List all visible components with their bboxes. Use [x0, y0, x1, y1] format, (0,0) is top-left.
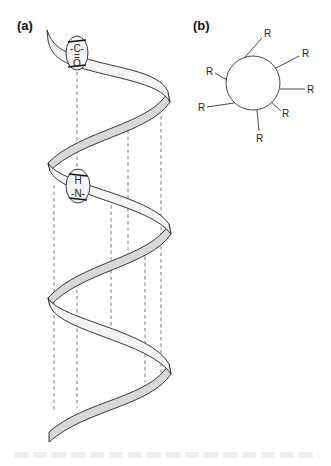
r-label: R — [198, 102, 205, 113]
r-label: R — [256, 133, 263, 144]
r-label: R — [307, 84, 314, 95]
panel-b-label: (b) — [193, 18, 210, 33]
amide-group: H -N- — [66, 169, 90, 203]
r-label: R — [282, 108, 289, 119]
helical-wheel: R R R R R R R — [198, 28, 314, 144]
helix-ribbon-front — [47, 30, 171, 374]
amide-nitrogen: -N- — [71, 188, 85, 199]
carbonyl-group: -C- = O — [66, 36, 88, 70]
r-label: R — [302, 48, 309, 59]
carbonyl-oxygen: O — [73, 58, 81, 69]
helix-ribbon-back — [48, 92, 171, 442]
r-label: R — [206, 66, 213, 77]
helix-diagram: -C- = O H -N- (a) (b) R R R R R R — [0, 0, 331, 466]
r-label: R — [264, 28, 271, 39]
faded-caption — [14, 452, 319, 458]
amide-hydrogen: H — [74, 175, 81, 186]
panel-a-label: (a) — [17, 18, 33, 33]
